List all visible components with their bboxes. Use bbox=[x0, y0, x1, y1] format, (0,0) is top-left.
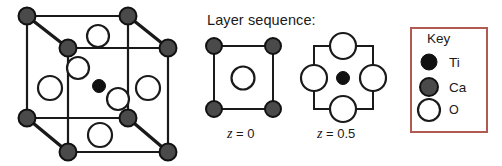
o-bottom-face-atom bbox=[88, 123, 112, 147]
layer-z0-diagram bbox=[206, 38, 281, 117]
layer-sequence-title: Layer sequence: bbox=[207, 12, 316, 28]
ca-front-bottom-right-atom bbox=[160, 144, 177, 161]
layer-z0-label-value: = 0 bbox=[232, 126, 254, 141]
unit-cell-titanium-atoms bbox=[93, 80, 106, 93]
layer-z05-o-left-edge-atom bbox=[301, 65, 327, 91]
ca-front-top-right-atom bbox=[160, 40, 177, 57]
layer-z0-o-center-atom bbox=[232, 67, 255, 90]
layer-z05-ti-center-atom bbox=[337, 72, 350, 85]
layer-z05-o-top-edge-atom bbox=[330, 33, 356, 59]
layer-z0-ca-bottom-left-atom bbox=[206, 101, 222, 117]
layer-z05-o-right-edge-atom bbox=[360, 65, 386, 91]
key-ca-label: Ca bbox=[449, 80, 466, 95]
layer-z0-ca-top-left-atom bbox=[206, 38, 222, 54]
layer-z05-diagram bbox=[301, 33, 386, 122]
ca-front-top-left-atom bbox=[60, 40, 77, 57]
ca-back-top-left-atom bbox=[19, 8, 36, 25]
layer-z0-label: z = 0 bbox=[227, 126, 255, 142]
o-right-face-atom bbox=[136, 76, 160, 100]
layer-z0-ca-top-right-atom bbox=[265, 38, 281, 54]
o-back-face-atom bbox=[67, 57, 89, 79]
key-ti-label: Ti bbox=[449, 55, 460, 70]
layer-z05-o-bottom-edge-atom bbox=[330, 96, 356, 122]
o-front-face-atom bbox=[107, 88, 129, 110]
o-top-face-atom bbox=[87, 25, 109, 47]
ca-back-bottom-right-atom bbox=[120, 110, 137, 127]
key-o-label: O bbox=[449, 103, 459, 117]
layer-z05-label: z = 0.5 bbox=[317, 126, 355, 142]
layer-z0-ca-bottom-right-atom bbox=[265, 101, 281, 117]
ca-front-bottom-left-atom bbox=[60, 144, 77, 161]
key-title: Key bbox=[427, 31, 450, 46]
ti-body-center-atom bbox=[93, 80, 106, 93]
o-left-face-atom bbox=[38, 76, 62, 100]
ca-back-bottom-left-atom bbox=[19, 110, 36, 127]
layer-z05-label-value: = 0.5 bbox=[322, 126, 355, 141]
crystal-structure-figure: Layer sequence: z = 0 z = 0.5 Key Ti Ca … bbox=[0, 0, 502, 166]
ca-back-top-right-atom bbox=[120, 8, 137, 25]
key-ti-marker-icon bbox=[421, 54, 437, 70]
key-ca-marker-icon bbox=[420, 78, 438, 96]
key-o-marker-icon bbox=[418, 99, 440, 121]
